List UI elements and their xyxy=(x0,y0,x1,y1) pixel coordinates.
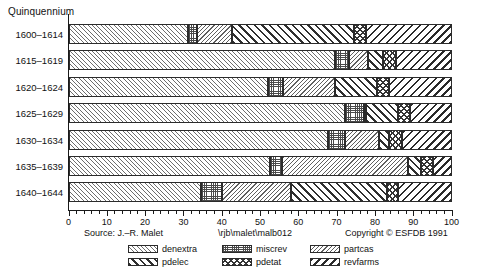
bar-segment-partcas xyxy=(345,130,379,150)
x-minor-tick xyxy=(252,211,253,214)
x-tick-50 xyxy=(260,211,261,216)
legend-item-denextra[interactable]: denextra xyxy=(128,244,197,254)
bar-segment-partcas xyxy=(222,182,291,202)
category-label-1625–1629: 1625–1629 xyxy=(15,108,63,119)
bar-row xyxy=(69,50,452,70)
x-tick-label-20: 20 xyxy=(132,217,158,227)
x-minor-tick xyxy=(214,211,215,214)
x-tick-label-50: 50 xyxy=(247,217,273,227)
bar-segment-partcas xyxy=(349,50,368,70)
source-line: Source: J.–R. Malet \rjb\malet\malb012 C… xyxy=(0,228,478,242)
bar-segment-pdetat xyxy=(387,182,398,202)
bar-segment-miscrev xyxy=(328,130,345,150)
bar-row xyxy=(69,103,452,123)
legend-item-revfarms[interactable]: revfarms xyxy=(310,257,379,267)
legend-swatch-pdelec xyxy=(128,258,158,266)
x-minor-tick xyxy=(360,211,361,214)
bar-row xyxy=(69,130,452,150)
legend-swatch-partcas xyxy=(310,245,340,253)
file-path-text: \rjb\malet\malb012 xyxy=(218,228,292,238)
x-minor-tick xyxy=(406,211,407,214)
legend-row: denextramiscrevpartcas xyxy=(0,244,478,257)
x-tick-100 xyxy=(452,211,453,216)
y-axis-title: Quinquennium xyxy=(8,6,74,17)
bar-row xyxy=(69,156,452,176)
x-minor-tick xyxy=(91,211,92,214)
legend-swatch-pdetat xyxy=(222,258,252,266)
x-minor-tick xyxy=(314,211,315,214)
x-tick-40 xyxy=(222,211,223,216)
copyright-text: Copyright © ESFDB 1991 xyxy=(345,228,448,238)
legend-row: pdelecpdetatrevfarms xyxy=(0,257,478,270)
bar-segment-pdetat xyxy=(377,77,388,97)
plot-area xyxy=(69,22,452,207)
bar-segment-pdelec xyxy=(379,130,389,150)
x-minor-tick xyxy=(429,211,430,214)
bar-segment-partcas xyxy=(197,24,231,44)
x-tick-10 xyxy=(107,211,108,216)
category-label-1600–1614: 1600–1614 xyxy=(15,29,63,40)
bar-segment-miscrev xyxy=(270,156,281,176)
bar-segment-miscrev xyxy=(345,103,364,123)
chart-footer: Source: J.–R. Malet \rjb\malet\malb012 C… xyxy=(0,228,478,280)
x-minor-tick xyxy=(229,211,230,214)
legend-item-pdelec[interactable]: pdelec xyxy=(128,257,189,267)
x-minor-tick xyxy=(398,211,399,214)
x-minor-tick xyxy=(206,211,207,214)
legend-swatch-denextra xyxy=(128,245,158,253)
bar-segment-revfarms xyxy=(396,50,452,70)
bar-segment-pdetat xyxy=(389,130,402,150)
x-tick-label-40: 40 xyxy=(209,217,235,227)
category-label-1615–1619: 1615–1619 xyxy=(15,55,63,66)
x-minor-tick xyxy=(436,211,437,214)
x-tick-label-30: 30 xyxy=(170,217,196,227)
x-tick-label-100: 100 xyxy=(439,217,465,227)
bar-segment-denextra xyxy=(69,77,268,97)
bar-segment-denextra xyxy=(69,182,201,202)
bar-row xyxy=(69,77,452,97)
bar-segment-revfarms xyxy=(366,24,452,44)
x-minor-tick xyxy=(84,211,85,214)
bar-segment-miscrev xyxy=(335,50,348,70)
bar-row xyxy=(69,182,452,202)
legend-item-pdetat[interactable]: pdetat xyxy=(222,257,281,267)
source-text: Source: J.–R. Malet xyxy=(84,228,163,238)
bar-segment-partcas xyxy=(283,77,335,97)
x-tick-0 xyxy=(69,211,70,216)
bar-segment-pdelec xyxy=(291,182,387,202)
bar-segment-pdelec xyxy=(366,103,399,123)
bar-segment-miscrev xyxy=(268,77,283,97)
bar-segment-denextra xyxy=(69,130,328,150)
category-label-1640–1644: 1640–1644 xyxy=(15,187,63,198)
bar-segment-pdetat xyxy=(398,103,409,123)
x-tick-label-80: 80 xyxy=(362,217,388,227)
bar-segment-pdelec xyxy=(408,156,421,176)
x-tick-label-10: 10 xyxy=(94,217,120,227)
x-tick-80 xyxy=(375,211,376,216)
x-minor-tick xyxy=(444,211,445,214)
category-label-1620–1624: 1620–1624 xyxy=(15,82,63,93)
bar-segment-denextra xyxy=(69,156,270,176)
legend-label-pdelec: pdelec xyxy=(162,257,189,267)
x-minor-tick xyxy=(114,211,115,214)
x-tick-label-60: 60 xyxy=(285,217,311,227)
x-minor-tick xyxy=(268,211,269,214)
bar-segment-pdelec xyxy=(335,77,377,97)
bar-segment-miscrev xyxy=(188,24,198,44)
bar-segment-pdetat xyxy=(354,24,365,44)
bar-segment-revfarms xyxy=(389,77,452,97)
x-minor-tick xyxy=(130,211,131,214)
legend-item-miscrev[interactable]: miscrev xyxy=(222,244,287,254)
legend-swatch-miscrev xyxy=(222,245,252,253)
x-minor-tick xyxy=(176,211,177,214)
legend-item-partcas[interactable]: partcas xyxy=(310,244,374,254)
legend-label-revfarms: revfarms xyxy=(344,257,379,267)
bar-segment-denextra xyxy=(69,24,188,44)
chart-root: Quinquennium 0102030405060708090100 1600… xyxy=(0,0,478,280)
x-minor-tick xyxy=(153,211,154,214)
legend-label-partcas: partcas xyxy=(344,244,374,254)
x-minor-tick xyxy=(306,211,307,214)
legend-label-miscrev: miscrev xyxy=(256,244,287,254)
x-minor-tick xyxy=(421,211,422,214)
x-minor-tick xyxy=(275,211,276,214)
